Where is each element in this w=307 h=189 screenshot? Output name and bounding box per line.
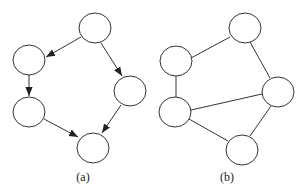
- diagram-b-label: (b): [220, 170, 234, 184]
- edge-b3-b5: [189, 119, 228, 141]
- edge-b3-b4: [191, 94, 262, 110]
- node-a1: [79, 13, 111, 43]
- node-b1: [229, 13, 261, 43]
- node-a5: [77, 133, 109, 163]
- diagram-a-label: (a): [76, 170, 89, 184]
- node-b2: [160, 46, 192, 76]
- diagram-b: (b): [159, 13, 294, 184]
- node-a3: [13, 97, 45, 127]
- node-b5: [226, 135, 258, 165]
- edge-a1-a4: [101, 43, 122, 76]
- node-b4: [262, 77, 294, 107]
- edge-a4-a5: [102, 105, 121, 133]
- node-a2: [13, 45, 45, 75]
- edge-b1-b4: [250, 42, 270, 78]
- diagram-a: (a): [13, 13, 146, 184]
- diagram-canvas: (a) (b): [0, 0, 307, 189]
- edge-b4-b5: [250, 106, 271, 136]
- edge-a1-a2: [46, 37, 81, 57]
- node-b3: [159, 97, 191, 127]
- edge-a3-a5: [44, 119, 78, 137]
- node-a4: [114, 76, 146, 106]
- edge-b1-b2: [191, 37, 230, 58]
